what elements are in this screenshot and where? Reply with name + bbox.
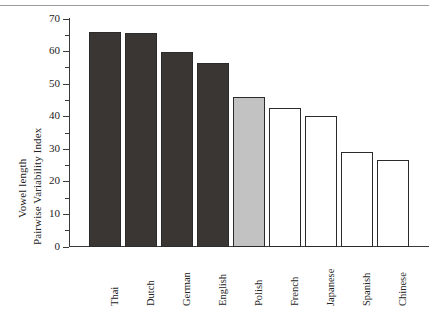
bar-thai: [89, 32, 121, 247]
x-label-dutch: Dutch: [145, 280, 156, 306]
bar-series: [0, 0, 429, 310]
bar-spanish: [341, 152, 373, 247]
x-label-japanese: Japanese: [325, 269, 336, 306]
x-label-spanish: Spanish: [361, 273, 372, 306]
x-label-thai: Thai: [109, 287, 120, 306]
x-label-polish: Polish: [253, 280, 264, 306]
bar-polish: [233, 97, 265, 247]
plot-area: 010203040506070 ThaiDutchGermanEnglishPo…: [0, 0, 429, 310]
x-label-chinese: Chinese: [397, 272, 408, 306]
bar-chinese: [377, 160, 409, 247]
bar-french: [269, 108, 301, 247]
x-label-german: German: [181, 272, 192, 306]
bar-japanese: [305, 116, 337, 247]
bar-german: [161, 52, 193, 247]
bar-dutch: [125, 33, 157, 247]
x-label-french: French: [289, 277, 300, 306]
bar-chart-figure: Vowel length Pairwise Variability Index …: [0, 0, 429, 310]
x-label-english: English: [217, 274, 228, 306]
bar-english: [197, 63, 229, 247]
